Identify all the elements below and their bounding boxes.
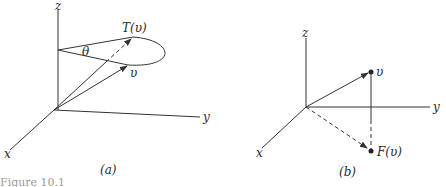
- point-F: [369, 149, 374, 154]
- vector-label-a: υ: [130, 66, 137, 80]
- figure-canvas: z y x T(υ) υ θ (a) z y x υ F(υ) (b) Figu…: [0, 0, 446, 187]
- z-label-b: z: [301, 26, 309, 40]
- vector-line-a: [54, 62, 106, 110]
- z-label-a: z: [54, 0, 62, 13]
- vector-v-a: [54, 66, 127, 110]
- angle-label: θ: [82, 45, 90, 59]
- image-label-b: F(υ): [376, 145, 402, 159]
- rotation-arc: [128, 37, 165, 65]
- panel-b: z y x υ F(υ) (b): [256, 26, 440, 179]
- x-axis-a: [10, 110, 54, 150]
- x-label-b: x: [256, 146, 263, 160]
- vector-T-dashed: [106, 39, 131, 62]
- radius-to-vector: [58, 50, 128, 65]
- y-label-a: y: [202, 110, 210, 124]
- vector-v-b: [306, 73, 368, 107]
- figure-caption: Figure 10.1: [0, 176, 65, 187]
- caption-b: (b): [339, 165, 356, 179]
- caption-a: (a): [100, 163, 117, 177]
- x-label-a: x: [4, 147, 11, 161]
- vector-label-b: υ: [376, 65, 383, 79]
- y-label-b: y: [432, 100, 440, 114]
- y-axis-a: [54, 110, 200, 117]
- x-axis-b: [262, 107, 306, 148]
- vector-F-dashed: [306, 107, 367, 148]
- panel-a: z y x T(υ) υ θ (a): [4, 0, 210, 177]
- image-label-a: T(υ): [122, 21, 147, 35]
